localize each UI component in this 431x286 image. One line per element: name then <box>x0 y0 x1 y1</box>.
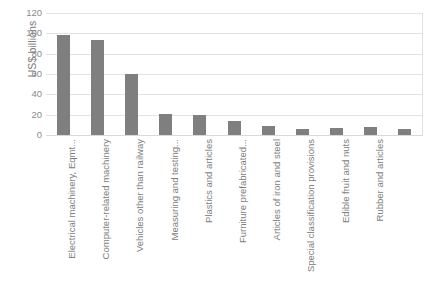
bar <box>296 129 309 135</box>
x-axis-category-label: Special classification provisions <box>306 139 316 272</box>
x-axis-category-label: Computer-related machinery <box>101 139 111 259</box>
y-axis-tick-label: 120 <box>14 8 42 18</box>
bar <box>330 128 343 135</box>
y-axis-tick-label: 60 <box>14 69 42 79</box>
axis-baseline <box>46 135 422 136</box>
x-axis-category-labels: Electrical machinery, Eqmt...Computer-re… <box>46 139 422 285</box>
x-axis-category-label: Vehicles other than railway <box>135 139 145 252</box>
x-axis-category-label: Rubber and articles <box>375 139 385 221</box>
x-axis-category-label: Edible fruit and nuts <box>341 139 351 223</box>
x-axis-category-label: Furniture prefabricated... <box>238 139 248 243</box>
x-axis-category-label: Plastics and articles <box>204 139 214 223</box>
bar <box>193 115 206 135</box>
bar-series <box>46 13 422 135</box>
bar <box>398 129 411 135</box>
bar <box>228 121 241 135</box>
plot-right-border <box>422 13 423 136</box>
x-axis-category-label: Electrical machinery, Eqmt... <box>67 139 77 259</box>
plot-area <box>46 13 422 135</box>
bar <box>91 40 104 135</box>
y-axis-tick-label: 40 <box>14 90 42 100</box>
y-axis-tick-label: 20 <box>14 110 42 120</box>
x-axis-category-label: Articles of iron and steel <box>272 139 282 240</box>
y-axis-tick-labels: 120100806040200 <box>14 13 42 135</box>
bar-chart: US$ billions 120100806040200 Electrical … <box>0 0 431 286</box>
bar <box>364 127 377 135</box>
bar <box>159 114 172 135</box>
y-axis-tick-label: 0 <box>14 130 42 140</box>
bar <box>57 35 70 135</box>
bar <box>262 126 275 135</box>
x-axis-category-label: Measuring and testing... <box>170 139 180 240</box>
y-axis-tick-label: 100 <box>14 29 42 39</box>
bar <box>125 74 138 135</box>
y-axis-tick-label: 80 <box>14 49 42 59</box>
